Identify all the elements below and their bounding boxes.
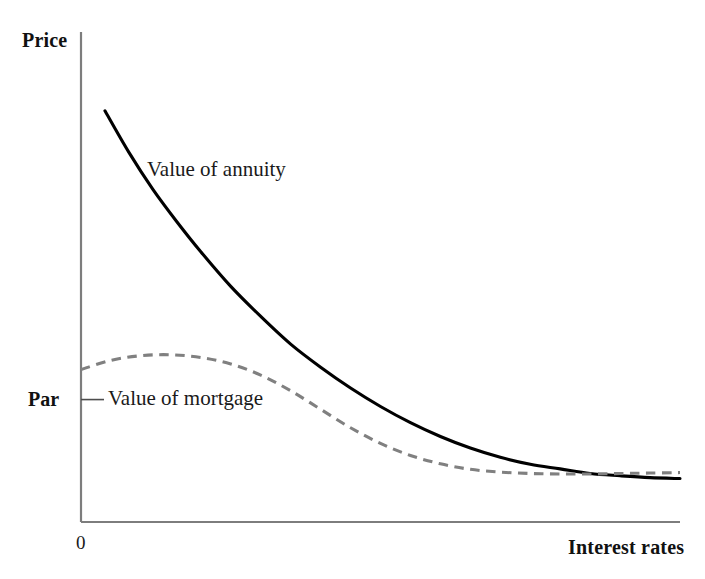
- x-axis-title: Interest rates: [568, 537, 684, 557]
- x-axis-tick-label-origin: 0: [76, 533, 86, 552]
- mortgage-curve: [81, 355, 680, 474]
- series-label-annuity: Value of annuity: [147, 159, 286, 180]
- series-label-mortgage: Value of mortgage: [108, 388, 263, 409]
- y-axis-tick-label-par: Par: [28, 389, 59, 409]
- chart-figure: Price Interest rates Par 0 Value of annu…: [0, 0, 705, 579]
- y-axis-title: Price: [22, 30, 67, 50]
- chart-plot-area: [0, 0, 705, 579]
